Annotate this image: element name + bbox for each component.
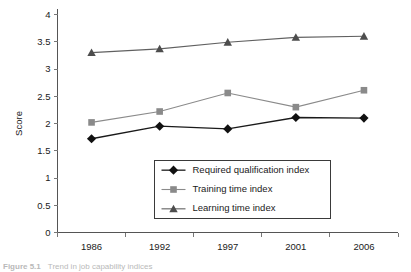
figure-caption: Figure 5.1Trend in job capability indice… [3, 261, 408, 272]
x-tick-label-1992: 1992 [149, 241, 170, 252]
legend-label-2: Training time index [193, 183, 273, 194]
y-tick-label-4: 4 [45, 9, 50, 20]
marker-2-1997 [224, 90, 231, 97]
y-tick-label-0: 0 [45, 227, 50, 238]
marker-1-2006 [359, 113, 368, 122]
marker-1-2001 [291, 113, 300, 122]
y-tick-label-2.5: 2.5 [37, 91, 50, 102]
x-tick-label-2001: 2001 [285, 241, 306, 252]
line-chart: 00.511.522.533.5419861992199720012006Sco… [0, 0, 411, 272]
marker-1-1997 [223, 124, 232, 133]
y-axis-title: Score [13, 111, 24, 136]
caption-number: Figure 5.1 [3, 262, 41, 271]
marker-2-1992 [156, 108, 163, 115]
legend-label-1: Required qualification index [193, 164, 310, 175]
legend-marker-square-icon [170, 186, 177, 193]
marker-1-1986 [87, 134, 96, 143]
caption-text: Trend in job capability indices [48, 262, 153, 271]
marker-2-2006 [361, 87, 368, 94]
marker-2-2001 [293, 104, 300, 111]
x-tick-label-1997: 1997 [217, 241, 238, 252]
x-tick-label-1986: 1986 [81, 241, 102, 252]
y-tick-label-3: 3 [45, 63, 50, 74]
y-tick-label-3.5: 3.5 [37, 36, 50, 47]
y-tick-label-1: 1 [45, 172, 50, 183]
legend-label-3: Learning time index [193, 202, 276, 213]
y-tick-label-0.5: 0.5 [37, 200, 50, 211]
y-tick-label-2: 2 [45, 118, 50, 129]
marker-1-1992 [155, 122, 164, 131]
x-tick-label-2006: 2006 [353, 241, 374, 252]
marker-2-1986 [88, 119, 95, 126]
figure-container: 00.511.522.533.5419861992199720012006Sco… [0, 0, 411, 272]
y-tick-label-1.5: 1.5 [37, 145, 50, 156]
